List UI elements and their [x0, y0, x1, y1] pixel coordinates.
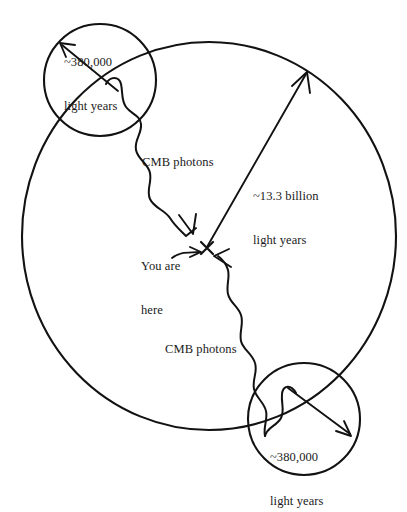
label-radius-line1: ~13.3 billion — [253, 189, 319, 204]
label-observer-line1: You are — [141, 259, 180, 274]
label-radius-line2: light years — [253, 233, 319, 248]
label-bottom-line1: ~380,000 — [270, 450, 324, 465]
label-top-line1: ~380,000 — [64, 55, 118, 70]
label-cmb-photons-upper: CMB photons — [142, 126, 214, 199]
label-cmb-lower-text: CMB photons — [165, 342, 237, 357]
label-top-line2: light years — [64, 99, 118, 114]
label-bottom-line2: light years — [270, 494, 324, 509]
label-top-last-scattering-distance: ~380,000 light years — [64, 26, 118, 142]
label-bottom-last-scattering-distance: ~380,000 light years — [270, 421, 324, 512]
label-cmb-photons-lower: CMB photons — [165, 313, 237, 386]
you-are-here-x-mark — [201, 242, 213, 254]
label-cmb-upper-text: CMB photons — [142, 155, 214, 170]
label-observable-universe-radius: ~13.3 billion light years — [253, 160, 319, 276]
cmb-photon-arrowhead-lower — [214, 249, 231, 267]
